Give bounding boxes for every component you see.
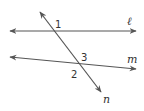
angle-2-label: 2 xyxy=(71,69,77,80)
angle-3-label: 3 xyxy=(81,52,87,63)
line-l-label: ℓ xyxy=(127,15,132,28)
line-m-label: m xyxy=(127,53,137,66)
line-n xyxy=(40,12,101,92)
geometry-diagram: 1 3 2 ℓ m n xyxy=(0,0,144,111)
angle-1-label: 1 xyxy=(55,19,61,30)
line-m xyxy=(10,57,136,69)
line-n-label: n xyxy=(103,93,110,106)
